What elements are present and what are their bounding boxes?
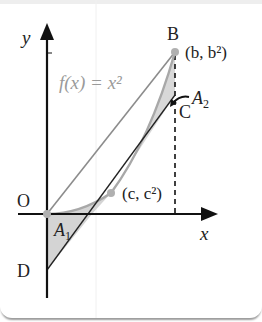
- tangent-point: [107, 189, 115, 197]
- point-b-coords: (b, b²): [185, 43, 227, 62]
- diagram-card: y x f(x) = x² B (b, b²) C (c, c²) O D A1…: [0, 0, 262, 318]
- function-label: f(x) = x²: [59, 72, 122, 94]
- point-c-label: C: [179, 102, 191, 122]
- origin-point: [43, 210, 51, 218]
- origin-label: O: [17, 191, 30, 211]
- region-a2-label: A2: [191, 88, 209, 111]
- parabola-tangent-diagram: y x f(x) = x² B (b, b²) C (c, c²) O D A1…: [0, 0, 262, 322]
- tangent-point-coords: (c, c²): [122, 184, 162, 203]
- region-a2-subscript: 2: [203, 97, 209, 111]
- region-a1-subscript: 1: [65, 229, 71, 243]
- point-b: [171, 48, 179, 56]
- y-axis-label: y: [20, 27, 31, 48]
- y-axis-arrow-icon: [40, 23, 54, 40]
- tangent-line: [47, 95, 175, 270]
- point-d-label: D: [17, 261, 30, 281]
- x-axis-label: x: [199, 223, 209, 244]
- x-axis-arrow-icon: [201, 207, 218, 221]
- point-b-label: B: [167, 24, 179, 44]
